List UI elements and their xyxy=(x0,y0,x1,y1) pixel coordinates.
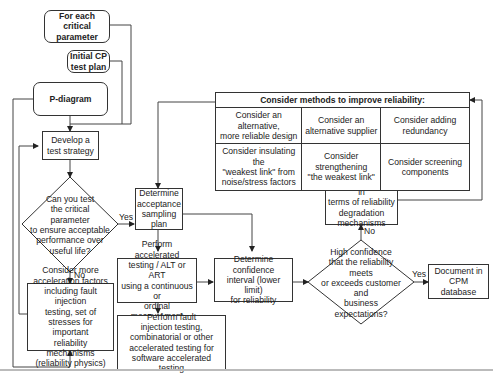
method-insulating-weakest-link: Consider insulating the "weakest link" f… xyxy=(216,144,302,190)
page-divider xyxy=(0,369,493,371)
method-strengthening-weakest-link: Consider strengthening "the weakest link… xyxy=(302,144,381,190)
method-screening-components: Consider screening components xyxy=(381,144,470,190)
edge-label-yes-2: Yes xyxy=(412,269,426,279)
node-for-each-critical-parameter: For each critical parameter xyxy=(44,10,110,43)
method-alternative-design: Consider an alternative, more reliable d… xyxy=(216,108,302,144)
node-p-diagram: P-diagram xyxy=(33,82,108,116)
decision-confidence-text: High confidence that the reliability mee… xyxy=(318,256,404,310)
method-adding-redundancy: Consider adding redundancy xyxy=(381,108,470,144)
node-develop-test-strategy: Develop a test strategy xyxy=(42,131,99,160)
node-determine-confidence-interval: Determine confidence interval (lower lim… xyxy=(214,258,293,302)
node-initial-cp-test-plan: Initial CP test plan xyxy=(67,50,110,73)
node-determine-acceptance-sampling: Determine acceptance sampling plan xyxy=(135,188,183,230)
node-perform-accelerated-testing: Perform accelerated testing / ALT or ART… xyxy=(117,258,197,303)
methods-table-title: Consider methods to improve reliability: xyxy=(216,93,470,108)
node-document-cpm-database: Document in CPM database xyxy=(428,264,489,299)
edge-label-yes: Yes xyxy=(119,212,133,222)
node-consider-more-acceleration: Consider more acceleration factors inclu… xyxy=(27,283,114,351)
node-perform-fault-injection: Perform fault injection testing, combina… xyxy=(117,315,226,370)
method-alternative-supplier: Consider an alternative supplier xyxy=(302,108,381,144)
methods-table: Consider methods to improve reliability:… xyxy=(215,92,470,191)
decision-test-text: Can you test the critical parameter to e… xyxy=(30,196,110,254)
